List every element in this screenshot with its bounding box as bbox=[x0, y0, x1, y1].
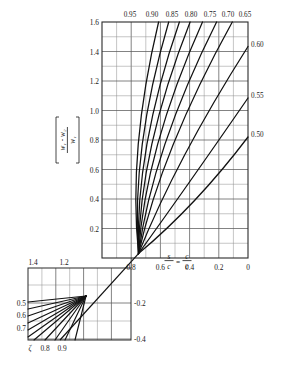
y-tick-0: 1.6 bbox=[90, 18, 100, 27]
x-tick-3: 0.2 bbox=[214, 263, 224, 272]
lower-y-tick--0.2: -0.2 bbox=[134, 299, 146, 308]
lower-y-ticks: -0.2 -0.4 bbox=[134, 299, 146, 344]
y-tick-7: 0.2 bbox=[90, 225, 100, 234]
curve-label-right-0: 0.60 bbox=[251, 41, 264, 49]
lower-x-top-ticks: 1.4 1.2 bbox=[28, 258, 69, 267]
curve-label-top-3: 0.80 bbox=[185, 11, 198, 19]
y-axis-label-numerator: w₁ - w₂ bbox=[58, 129, 67, 151]
x-tick-4: 0 bbox=[246, 263, 250, 272]
lower-bottom-0.8: 0.8 bbox=[40, 344, 50, 353]
x-tick-1: 0.6 bbox=[156, 263, 166, 272]
chart-svg: 0.95 0.90 0.85 0.80 0.75 0.70 0.65 0.60 … bbox=[0, 0, 281, 366]
y-tick-1: 1.4 bbox=[90, 48, 100, 57]
lower-bottom-0.9: 0.9 bbox=[57, 344, 67, 353]
curve-label-right-2: 0.50 bbox=[251, 131, 264, 139]
lower-left-0.5: 0.5 bbox=[17, 299, 27, 308]
lower-bottom-labels: ζ 0.8 0.9 bbox=[29, 344, 67, 353]
lower-left-labels: 0.5 0.6 0.7 bbox=[17, 299, 27, 333]
y-tick-4: 0.8 bbox=[90, 136, 100, 145]
x-axis-label: s c = c c bbox=[165, 252, 192, 271]
curve-label-right-1: 0.55 bbox=[251, 92, 264, 100]
main-top-labels: 0.95 0.90 0.85 0.80 0.75 0.70 0.65 bbox=[124, 11, 252, 19]
y-tick-6: 0.4 bbox=[90, 195, 100, 204]
curve-label-top-5: 0.70 bbox=[222, 11, 235, 19]
curve-label-top-2: 0.85 bbox=[166, 11, 179, 19]
lower-tick-1.2: 1.2 bbox=[59, 258, 69, 267]
lower-panel-connector-line bbox=[60, 254, 139, 340]
zeta-symbol: ζ bbox=[29, 344, 33, 353]
x-axis-label-denominator-1: c bbox=[167, 262, 171, 271]
y-tick-3: 1.0 bbox=[90, 107, 100, 116]
figure-root: 0.95 0.90 0.85 0.80 0.75 0.70 0.65 0.60 … bbox=[0, 0, 281, 366]
lower-left-0.7: 0.7 bbox=[17, 324, 27, 333]
curve-label-top-0: 0.95 bbox=[124, 11, 137, 19]
y-axis-label-denominator: w₁ bbox=[68, 136, 77, 144]
y-tick-2: 1.2 bbox=[90, 77, 100, 86]
curve-label-top-4: 0.75 bbox=[204, 11, 217, 19]
main-curve-family bbox=[136, 22, 248, 254]
curve-label-top-1: 0.90 bbox=[146, 11, 159, 19]
lower-y-tick--0.4: -0.4 bbox=[134, 335, 146, 344]
y-axis-label: w₁ - w₂ w₁ bbox=[58, 127, 77, 153]
main-curve-0.60 bbox=[139, 47, 249, 254]
curve-label-top-6: 0.65 bbox=[239, 11, 252, 19]
x-axis-label-numerator-1: s bbox=[168, 252, 171, 261]
y-tick-5: 0.6 bbox=[90, 166, 100, 175]
main-y-ticks: 1.6 1.4 1.2 1.0 0.8 0.6 0.4 0.2 bbox=[90, 18, 100, 234]
x-axis-label-equals: = bbox=[176, 258, 180, 267]
main-curve-0.80 bbox=[139, 22, 191, 254]
main-right-labels: 0.60 0.55 0.50 bbox=[251, 41, 264, 139]
lower-left-0.6: 0.6 bbox=[17, 311, 27, 320]
lower-tick-1.4: 1.4 bbox=[28, 258, 38, 267]
lower-curve-family bbox=[28, 296, 86, 340]
x-axis-label-numerator-2: c bbox=[185, 252, 189, 261]
main-curve-0.65 bbox=[139, 22, 233, 254]
